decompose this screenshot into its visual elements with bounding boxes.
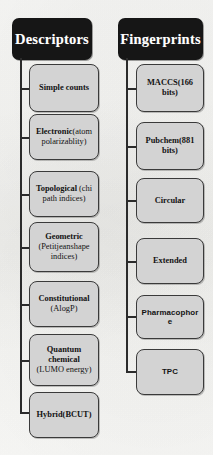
- descriptors-node-geometric[interactable]: Geometric(Petitjeanshape indices): [29, 222, 99, 272]
- descriptors-tree: Descriptors Simple counts Electronic(ato…: [0, 0, 110, 455]
- fingerprints-root-label: Fingerprints: [120, 32, 201, 47]
- fingerprints-node-label-3: Extended: [153, 256, 187, 266]
- descriptors-node-constitutional[interactable]: Constitutional(AlogP): [29, 281, 99, 327]
- descriptors-node-simple-counts[interactable]: Simple counts: [29, 64, 99, 112]
- descriptors-node-topological[interactable]: Topological (chi path indices): [29, 171, 99, 217]
- descriptors-root-node[interactable]: Descriptors: [12, 18, 92, 60]
- fingerprints-node-label-4: Pharmacophore: [140, 308, 200, 327]
- descriptors-node-electronic[interactable]: Electronic(atom polarizablity): [29, 114, 99, 160]
- descriptors-root-label: Descriptors: [15, 32, 89, 47]
- descriptors-node-quantum-chemical[interactable]: Quantum chemical(LUMO energy): [29, 334, 99, 386]
- descriptors-node-label-4: Constitutional(AlogP): [38, 294, 89, 314]
- descriptors-node-label-5: Quantum chemical(LUMO energy): [33, 345, 95, 375]
- fingerprints-node-label-1: Pubchem(881 bits): [140, 136, 200, 156]
- fingerprints-node-maccs[interactable]: MACCS(166 bits): [136, 64, 204, 112]
- descriptors-fingerprints-diagram: Descriptors Simple counts Electronic(ato…: [0, 0, 213, 455]
- fingerprints-tree: Fingerprints MACCS(166 bits) Pubchem(881…: [105, 0, 213, 455]
- descriptors-node-label-0: Simple counts: [39, 83, 89, 93]
- fingerprints-node-pharmacophore[interactable]: Pharmacophore: [136, 295, 204, 339]
- descriptors-node-label-6: Hybrid(BCUT): [37, 410, 92, 420]
- fingerprints-root-node[interactable]: Fingerprints: [118, 18, 203, 60]
- fingerprints-node-circular[interactable]: Circular: [136, 178, 204, 223]
- fingerprints-node-extended[interactable]: Extended: [136, 238, 204, 284]
- descriptors-node-label-3: Geometric(Petitjeanshape indices): [33, 232, 95, 262]
- descriptors-node-hybrid-bcut[interactable]: Hybrid(BCUT): [29, 392, 99, 438]
- fingerprints-node-tpc[interactable]: TPC: [136, 349, 204, 395]
- fingerprints-node-label-0: MACCS(166 bits): [140, 78, 200, 98]
- descriptors-node-label-2: Topological (chi path indices): [33, 184, 95, 204]
- fingerprints-node-pubchem[interactable]: Pubchem(881 bits): [136, 122, 204, 170]
- fingerprints-trunk-line: [126, 58, 128, 373]
- fingerprints-node-label-5: TPC: [162, 367, 178, 376]
- fingerprints-node-label-2: Circular: [155, 196, 186, 206]
- descriptors-node-label-1: Electronic(atom polarizablity): [33, 127, 95, 147]
